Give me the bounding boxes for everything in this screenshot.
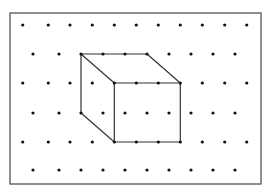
grid-dot <box>123 111 126 114</box>
grid-dot <box>113 23 116 26</box>
grid-dot <box>245 81 248 84</box>
grid-dot <box>47 81 50 84</box>
grid-dot <box>68 140 71 143</box>
grid-dot <box>157 81 160 84</box>
grid-dot <box>167 111 170 114</box>
grid-dot <box>189 168 192 171</box>
grid-dot <box>223 140 226 143</box>
grid-dot <box>113 140 116 143</box>
grid-dot <box>68 23 71 26</box>
grid-dot <box>101 111 104 114</box>
grid-dot <box>201 140 204 143</box>
grid-dot <box>91 140 94 143</box>
grid-dot <box>31 111 34 114</box>
grid-dot <box>101 52 104 55</box>
grid-dot <box>157 140 160 143</box>
grid-dot <box>145 111 148 114</box>
grid-dot <box>189 52 192 55</box>
grid-dot <box>245 23 248 26</box>
grid-dot <box>201 23 204 26</box>
grid-dot <box>223 81 226 84</box>
grid-dot <box>57 111 60 114</box>
grid-dot <box>47 23 50 26</box>
grid-dot <box>167 52 170 55</box>
grid-dot <box>21 23 24 26</box>
grid-dot <box>201 81 204 84</box>
grid-dot <box>91 23 94 26</box>
grid-dot <box>31 168 34 171</box>
grid-dot <box>233 52 236 55</box>
grid-dot <box>21 140 24 143</box>
grid-dot <box>233 168 236 171</box>
grid-dot <box>31 52 34 55</box>
grid-dot <box>135 81 138 84</box>
grid-dot <box>57 52 60 55</box>
grid-dot <box>79 111 82 114</box>
dot-grid-diagram <box>0 0 272 192</box>
grid-dot <box>145 168 148 171</box>
grid-dot <box>179 23 182 26</box>
grid-dot <box>245 140 248 143</box>
grid-dot <box>157 23 160 26</box>
grid-dot <box>145 52 148 55</box>
grid-dot <box>91 81 94 84</box>
diagram-background <box>0 0 272 192</box>
grid-dot <box>47 140 50 143</box>
grid-dot <box>211 52 214 55</box>
grid-dot <box>189 111 192 114</box>
grid-dot <box>179 81 182 84</box>
grid-dot <box>79 52 82 55</box>
grid-dot <box>68 81 71 84</box>
grid-dot <box>167 168 170 171</box>
grid-dot <box>101 168 104 171</box>
grid-dot <box>21 81 24 84</box>
grid-dot <box>179 140 182 143</box>
grid-dot <box>135 140 138 143</box>
grid-dot <box>57 168 60 171</box>
grid-dot <box>223 23 226 26</box>
grid-dot <box>123 168 126 171</box>
grid-dot <box>79 168 82 171</box>
grid-dot <box>113 81 116 84</box>
grid-dot <box>135 23 138 26</box>
grid-dot <box>233 111 236 114</box>
grid-dot <box>211 168 214 171</box>
grid-dot <box>211 111 214 114</box>
grid-dot <box>123 52 126 55</box>
